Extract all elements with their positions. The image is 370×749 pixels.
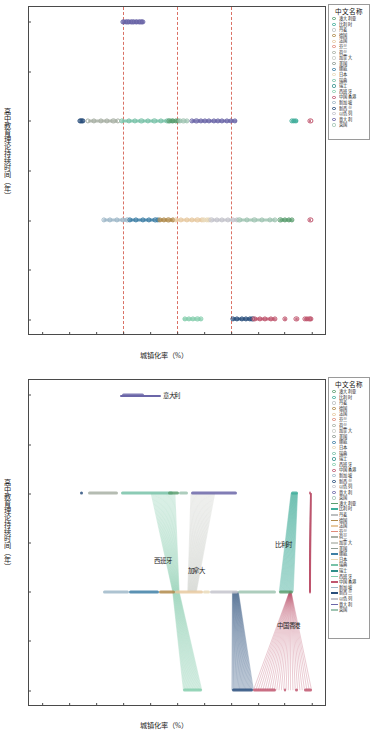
- y-axis-label-bottom: 高中教育理论持续时间（年）: [3, 479, 10, 570]
- data-point: [86, 118, 91, 123]
- legend-circle-swatch: [330, 39, 338, 44]
- legend-circle-swatch: [330, 462, 338, 467]
- legend-item-label: 挪威: [339, 67, 348, 72]
- x-axis-label-bottom: 城镇化率（%）: [140, 720, 188, 730]
- figure-page: 高中教育理论持续时间（年） 城镇化率（%） 2.02.53.03.54.04.5…: [0, 0, 370, 749]
- data-point: [282, 317, 287, 322]
- legend-circle-swatch: [330, 67, 338, 72]
- legend-line-swatch: [330, 507, 338, 512]
- legend-item-label: 丹麦: [339, 512, 348, 517]
- legend-circle-swatch: [330, 22, 338, 27]
- data-point: [259, 217, 264, 222]
- legend-line-swatch: [330, 524, 338, 529]
- legend-item-label: 瑞典: [339, 78, 348, 83]
- legend-line-swatch: [330, 607, 338, 612]
- series-band: [295, 689, 297, 692]
- legend-item-label: 比利时: [339, 395, 352, 400]
- data-point: [108, 217, 113, 222]
- legend-item-label: 中国香港: [339, 95, 356, 100]
- series-band: [175, 590, 203, 593]
- reference-line: [231, 7, 232, 334]
- annotation-label: 加拿大: [188, 566, 205, 575]
- legend-circle-swatch: [330, 83, 338, 88]
- series-band: [238, 590, 276, 593]
- data-point: [140, 217, 145, 222]
- legend-item-label: 新西兰: [339, 479, 352, 484]
- series-band: [203, 590, 211, 593]
- legend-item-label: 瑞士: [339, 568, 348, 573]
- legend-item-label: 新西兰: [339, 591, 352, 596]
- legend-circle-swatch: [330, 456, 338, 461]
- series-band: [253, 689, 276, 692]
- series-band: [88, 492, 118, 495]
- series-band: [129, 590, 159, 593]
- legend-line-swatch: [330, 546, 338, 551]
- legend-item-label: 澳大利亚: [339, 16, 356, 21]
- legend-item-label: 挪威: [339, 440, 348, 445]
- legend-top: 中文名称 澳大利亚比利时丹麦德国法国芬兰荷兰加拿大美国挪威日本瑞典瑞士西班牙中国…: [328, 4, 370, 140]
- series-band: [159, 590, 175, 593]
- line-chart-bottom: 高中教育理论持续时间（年） 城镇化率（%） 意大利西班牙加拿大比利时中国香港 2…: [0, 375, 370, 741]
- data-point: [272, 317, 277, 322]
- legend-bottom: 中文名称 澳大利亚比利时丹麦德国法国芬兰荷兰加拿大美国挪威日本瑞典瑞士西班牙中国…: [328, 377, 370, 639]
- legend-item-label: 中国香港: [339, 579, 356, 584]
- data-point: [308, 217, 313, 222]
- legend-item-label: 意大利: [339, 602, 352, 607]
- legend-item-label: 新加坡: [339, 473, 352, 478]
- data-point: [152, 118, 157, 123]
- legend-circle-swatch: [330, 395, 338, 400]
- x-axis-label-top: 城镇化率（%）: [140, 350, 188, 360]
- series-band: [210, 590, 238, 593]
- legend-title-top: 中文名称: [329, 5, 369, 16]
- legend-line-swatch: [330, 602, 338, 607]
- legend-item[interactable]: 英国: [330, 607, 368, 613]
- legend-circle-swatch: [330, 496, 338, 501]
- legend-item-label: 瑞士: [339, 456, 348, 461]
- data-point: [290, 217, 295, 222]
- legend-line-swatch: [330, 535, 338, 540]
- legend-item-label: 瑞典: [339, 563, 348, 568]
- data-point: [158, 118, 163, 123]
- legend-circle-swatch: [330, 72, 338, 77]
- legend-line-swatch: [330, 596, 338, 601]
- legend-item-label: 日本: [339, 72, 348, 77]
- annotation-label: 中国香港: [277, 621, 300, 630]
- data-point: [146, 217, 151, 222]
- legend-item-label: 瑞士: [339, 83, 348, 88]
- legend-item-label: 英国: [339, 607, 348, 612]
- legend-item-label: 丹麦: [339, 400, 348, 405]
- legend-circle-swatch: [330, 428, 338, 433]
- data-point: [198, 317, 203, 322]
- legend-item-label: 荷兰: [339, 50, 348, 55]
- legend-line-swatch: [330, 512, 338, 517]
- legend-item-label: 新加坡: [339, 100, 352, 105]
- legend-item[interactable]: 英国: [330, 122, 368, 128]
- data-point: [98, 118, 103, 123]
- data-point: [141, 19, 146, 24]
- legend-line-swatch: [330, 501, 338, 506]
- data-point: [114, 217, 119, 222]
- legend-line-swatch: [330, 563, 338, 568]
- legend-item-label: 西班牙: [339, 574, 352, 579]
- legend-item-label: 比利时: [339, 22, 352, 27]
- reference-line: [123, 7, 124, 334]
- legend-item-label: 以色列: [339, 111, 352, 116]
- data-point: [132, 118, 137, 123]
- series-band: [284, 689, 286, 692]
- y-axis-label-top: 高中教育理论持续时间（年）: [3, 108, 10, 199]
- legend-line-swatch: [330, 579, 338, 584]
- data-point: [92, 118, 97, 123]
- series-band: [168, 492, 179, 495]
- legend-circle-swatch: [330, 50, 338, 55]
- legend-item-label: 美国: [339, 546, 348, 551]
- legend-item-label: 日本: [339, 445, 348, 450]
- legend-item-label: 英国: [339, 496, 348, 501]
- data-point: [145, 118, 150, 123]
- series-band: [183, 689, 201, 692]
- legend-item-label: 加拿大: [339, 428, 352, 433]
- legend-circle-swatch: [330, 445, 338, 450]
- legend-circle-swatch: [330, 400, 338, 405]
- series-band: [291, 492, 297, 495]
- annotation-label: 西班牙: [154, 556, 171, 565]
- legend-circle-swatch: [330, 406, 338, 411]
